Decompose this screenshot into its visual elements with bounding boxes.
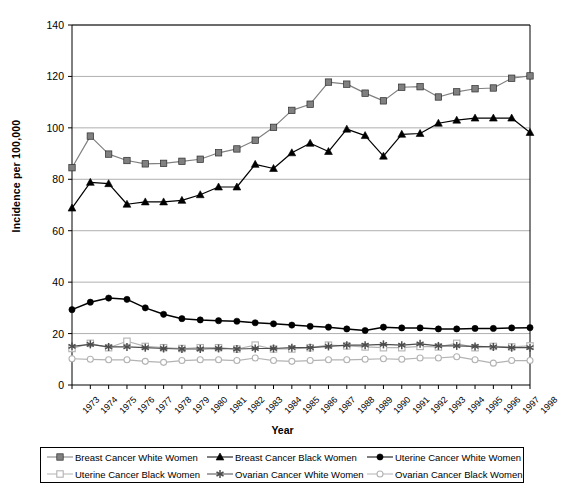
legend-marker-icon bbox=[367, 468, 393, 480]
data-point bbox=[362, 90, 368, 96]
series-2 bbox=[69, 295, 533, 334]
data-point bbox=[362, 356, 368, 362]
data-point bbox=[196, 191, 204, 198]
data-point bbox=[435, 355, 441, 361]
data-point bbox=[57, 471, 63, 477]
data-point bbox=[472, 86, 478, 92]
legend-item[interactable]: Uterine Cancer White Women bbox=[367, 449, 523, 465]
data-point bbox=[527, 73, 533, 79]
data-point bbox=[216, 357, 222, 363]
data-point bbox=[380, 356, 386, 362]
data-point bbox=[69, 165, 75, 171]
series-line bbox=[72, 357, 530, 363]
series-0 bbox=[69, 73, 533, 171]
legend-item[interactable]: Breast Cancer Black Women bbox=[207, 449, 365, 465]
legend-label: Uterine Cancer White Women bbox=[395, 452, 521, 463]
data-point bbox=[289, 322, 295, 328]
legend-label: Uterine Cancer Black Women bbox=[75, 469, 200, 480]
data-point bbox=[454, 89, 460, 95]
data-point bbox=[472, 325, 478, 331]
data-point bbox=[343, 125, 351, 132]
data-point bbox=[508, 75, 514, 81]
data-point bbox=[399, 356, 405, 362]
data-point bbox=[124, 357, 130, 363]
data-point bbox=[416, 130, 424, 137]
data-point bbox=[87, 299, 93, 305]
data-point bbox=[490, 325, 496, 331]
legend-marker-icon bbox=[47, 451, 73, 463]
legend-label: Ovarian Cancer Black Women bbox=[395, 469, 523, 480]
data-point bbox=[288, 149, 296, 156]
data-point bbox=[509, 358, 515, 364]
data-point bbox=[234, 358, 240, 364]
series-5 bbox=[69, 354, 533, 366]
data-point bbox=[217, 470, 224, 478]
data-point bbox=[69, 356, 75, 362]
data-point bbox=[527, 358, 533, 364]
data-point bbox=[435, 326, 441, 332]
data-point bbox=[106, 357, 112, 363]
data-point bbox=[105, 151, 111, 157]
data-point bbox=[377, 454, 383, 460]
legend-marker-icon bbox=[47, 468, 73, 480]
data-point bbox=[57, 454, 63, 460]
legend-marker-icon bbox=[367, 451, 393, 463]
data-point bbox=[344, 81, 350, 87]
data-point bbox=[215, 318, 221, 324]
data-point bbox=[197, 357, 203, 363]
plot-area bbox=[0, 0, 565, 498]
data-point bbox=[234, 318, 240, 324]
data-point bbox=[454, 326, 460, 332]
data-point bbox=[454, 354, 460, 360]
legend-label: Breast Cancer White Women bbox=[75, 452, 198, 463]
legend-label: Ovarian Cancer White Women bbox=[235, 469, 364, 480]
data-point bbox=[124, 296, 130, 302]
data-point bbox=[377, 471, 383, 477]
data-point bbox=[69, 307, 75, 313]
data-point bbox=[142, 305, 148, 311]
data-point bbox=[160, 160, 166, 166]
data-point bbox=[417, 325, 423, 331]
legend-item[interactable]: Breast Cancer White Women bbox=[47, 449, 205, 465]
data-point bbox=[417, 84, 423, 90]
data-point bbox=[161, 359, 167, 365]
data-point bbox=[252, 355, 258, 361]
data-point bbox=[87, 356, 93, 362]
data-point bbox=[216, 453, 224, 460]
data-point bbox=[179, 358, 185, 364]
data-point bbox=[490, 85, 496, 91]
series-line bbox=[72, 76, 530, 168]
data-point bbox=[527, 325, 533, 331]
data-point bbox=[215, 150, 221, 156]
data-point bbox=[526, 128, 534, 135]
data-point bbox=[472, 357, 478, 363]
data-point bbox=[124, 157, 130, 163]
legend-item[interactable]: Ovarian Cancer White Women bbox=[207, 466, 365, 482]
data-point bbox=[435, 94, 441, 100]
data-point bbox=[306, 139, 314, 146]
data-point bbox=[197, 156, 203, 162]
series-line bbox=[72, 298, 530, 330]
data-point bbox=[417, 355, 423, 361]
data-point bbox=[289, 358, 295, 364]
data-point bbox=[87, 133, 93, 139]
legend-marker-icon bbox=[207, 451, 233, 463]
chart-figure: Incidence per 100,000 Year 0204060801001… bbox=[0, 0, 565, 498]
data-point bbox=[197, 317, 203, 323]
data-point bbox=[325, 324, 331, 330]
data-point bbox=[509, 325, 515, 331]
data-point bbox=[271, 358, 277, 364]
chart-legend: Breast Cancer White WomenBreast Cancer B… bbox=[40, 447, 524, 483]
data-point bbox=[380, 324, 386, 330]
data-point bbox=[251, 160, 259, 167]
data-point bbox=[252, 320, 258, 326]
legend-marker-icon bbox=[207, 468, 233, 480]
series-3 bbox=[69, 338, 533, 352]
data-point bbox=[307, 358, 313, 364]
data-point bbox=[380, 98, 386, 104]
legend-item[interactable]: Ovarian Cancer Black Women bbox=[367, 466, 523, 482]
data-point bbox=[142, 161, 148, 167]
data-point bbox=[142, 358, 148, 364]
legend-item[interactable]: Uterine Cancer Black Women bbox=[47, 466, 205, 482]
data-point bbox=[344, 357, 350, 363]
